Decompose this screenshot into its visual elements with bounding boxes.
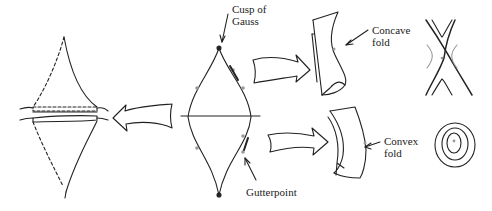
cusp-leader bbox=[222, 14, 228, 42]
concave-fold-label: Concave fold bbox=[372, 24, 410, 48]
convex-contours bbox=[435, 123, 475, 167]
arrow-concave bbox=[253, 55, 310, 83]
convex-fold-figure bbox=[328, 107, 380, 178]
arrow-convex bbox=[268, 128, 328, 155]
gutterpoint-label: Gutterpoint bbox=[246, 186, 297, 198]
split-surface-figure bbox=[20, 37, 108, 198]
gutter-leader bbox=[245, 158, 256, 180]
convex-fold-label: Convex fold bbox=[384, 135, 418, 159]
arrow-left bbox=[113, 104, 172, 131]
cusp-of-gauss-label: Cusp of Gauss bbox=[232, 3, 267, 27]
concave-fold-figure bbox=[312, 12, 368, 95]
lens-figure bbox=[181, 46, 260, 197]
diagram-canvas bbox=[0, 0, 492, 211]
concave-contours bbox=[426, 20, 472, 95]
